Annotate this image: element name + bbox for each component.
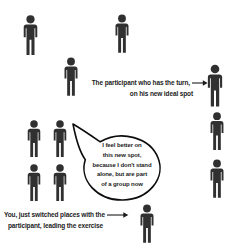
person-icon-group-3 bbox=[24, 164, 44, 201]
speech-bubble-line: I feel better on bbox=[84, 141, 160, 151]
person-icon-group-4 bbox=[50, 164, 70, 201]
annotation-you-line1: You, just switched places with the bbox=[4, 209, 105, 220]
diagram-canvas: I feel better on this new spot, because … bbox=[0, 0, 232, 245]
person-icon-top-center bbox=[112, 14, 132, 53]
arrow-right-icon bbox=[107, 211, 129, 219]
speech-bubble-line: this new spot, bbox=[84, 151, 160, 161]
annotation-you: You, just switched places with the parti… bbox=[4, 209, 129, 231]
annotation-turn-line1: The participant who has the turn, bbox=[92, 77, 190, 88]
speech-bubble-line: of a group now bbox=[84, 180, 160, 190]
person-icon-turn-target bbox=[204, 64, 226, 107]
annotation-you-line2: participant, leading the exercise bbox=[4, 220, 129, 231]
speech-bubble-text: I feel better on this new spot, because … bbox=[84, 141, 160, 190]
person-icon-top-left bbox=[20, 15, 41, 55]
person-icon-you bbox=[137, 204, 157, 243]
annotation-turn: The participant who has the turn, on his… bbox=[92, 77, 208, 99]
person-icon-group-1 bbox=[24, 120, 44, 157]
person-icon-right-1 bbox=[207, 112, 227, 150]
person-icon-top-second bbox=[61, 57, 81, 96]
annotation-turn-line2: on his new ideal spot bbox=[92, 88, 193, 99]
person-icon-group-2 bbox=[50, 120, 70, 157]
speech-bubble-line: alone, but are part bbox=[84, 170, 160, 180]
person-icon-right-2 bbox=[207, 159, 227, 198]
speech-bubble-line: because I don't stand bbox=[84, 161, 160, 171]
